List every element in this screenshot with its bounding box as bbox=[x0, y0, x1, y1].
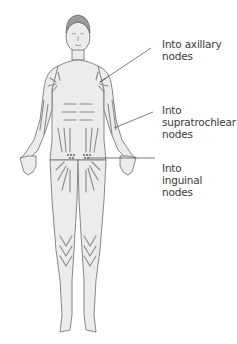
right-hand bbox=[120, 156, 136, 175]
supratrochlear-label-line1: Into bbox=[162, 104, 236, 116]
left-hand bbox=[20, 156, 36, 175]
supratrochlear-nodes-label: Into supratrochlear nodes bbox=[162, 104, 236, 140]
axillary-label-line1: Into axillary bbox=[162, 38, 221, 50]
inguinal-label-line3: nodes bbox=[162, 186, 202, 198]
inguinal-label-line1: Into bbox=[162, 162, 202, 174]
supratrochlear-label-line2: supratrochlear bbox=[162, 116, 236, 128]
right-leg bbox=[78, 160, 106, 332]
axillary-label-line2: nodes bbox=[162, 50, 221, 62]
axillary-leader-line bbox=[100, 48, 151, 82]
axillary-nodes-label: Into axillary nodes bbox=[162, 38, 221, 62]
inguinal-nodes-label: Into inguinal nodes bbox=[162, 162, 202, 198]
left-leg bbox=[50, 160, 78, 332]
neck bbox=[72, 50, 84, 60]
supratrochlear-leader-line bbox=[114, 112, 153, 128]
inguinal-label-line2: inguinal bbox=[162, 174, 202, 186]
supratrochlear-label-line3: nodes bbox=[162, 128, 236, 140]
